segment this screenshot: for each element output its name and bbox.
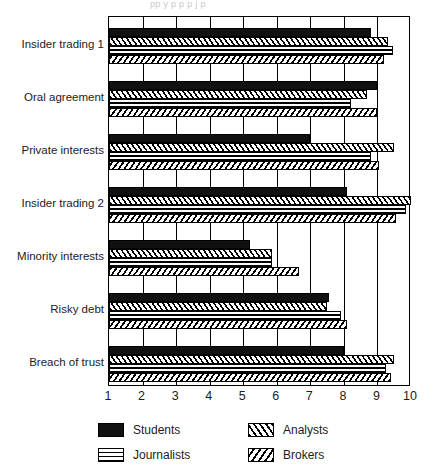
y-axis-label-oral-agreement: Oral agreement	[0, 91, 104, 103]
legend-item-journalists: Journalists	[98, 445, 190, 464]
y-axis-label-risky-debt: Risky debt	[0, 303, 104, 315]
bar-journalists-insider-trading-1	[109, 46, 393, 55]
bar-brokers-private-interests	[109, 161, 379, 170]
bar-analysts-risky-debt	[109, 302, 327, 311]
bar-journalists-private-interests	[109, 152, 371, 161]
y-axis-label-private-interests: Private interests	[0, 144, 104, 156]
bar-group	[109, 281, 409, 334]
legend-swatch-brokers-icon	[248, 448, 274, 462]
bar-analysts-oral-agreement	[109, 90, 367, 99]
x-tick-label-4: 4	[196, 389, 222, 403]
legend-item-brokers: Brokers	[248, 445, 324, 464]
x-tick-label-5: 5	[229, 389, 255, 403]
bar-analysts-insider-trading-2	[109, 196, 411, 205]
cut-off-title-sliver: pp y p p p j p	[150, 0, 439, 9]
bar-students-insider-trading-2	[109, 187, 347, 196]
legend-item-students: Students	[98, 420, 180, 439]
bar-group	[109, 228, 409, 281]
bar-journalists-risky-debt	[109, 311, 341, 320]
legend-label-students: Students	[133, 423, 180, 437]
bar-students-oral-agreement	[109, 81, 377, 90]
bar-chart-figure: pp y p p p j p Insider trading 1Oral agr…	[0, 0, 439, 473]
x-tick-label-8: 8	[330, 389, 356, 403]
legend-swatch-journalists-icon	[98, 448, 124, 462]
bar-journalists-breach-of-trust	[109, 364, 386, 373]
chart-legend: StudentsAnalystsJournalistsBrokers	[98, 420, 378, 468]
bar-students-breach-of-trust	[109, 346, 344, 355]
x-tick-label-6: 6	[263, 389, 289, 403]
bar-journalists-minority-interests	[109, 258, 272, 267]
legend-swatch-students-icon	[98, 423, 124, 437]
legend-swatch-analysts-icon	[248, 423, 274, 437]
bar-students-minority-interests	[109, 240, 250, 249]
plot-inner	[109, 17, 409, 385]
y-axis-label-breach-of-trust: Breach of trust	[0, 356, 104, 368]
x-tick-label-1: 1	[95, 389, 121, 403]
y-axis-label-minority-interests: Minority interests	[0, 250, 104, 262]
bar-students-private-interests	[109, 134, 310, 143]
bar-brokers-insider-trading-1	[109, 55, 384, 64]
bar-brokers-insider-trading-2	[109, 214, 396, 223]
bar-group	[109, 70, 409, 123]
x-tick-label-7: 7	[296, 389, 322, 403]
bar-analysts-insider-trading-1	[109, 37, 388, 46]
x-tick-label-9: 9	[363, 389, 389, 403]
bar-students-insider-trading-1	[109, 28, 371, 37]
plot-area	[108, 16, 410, 386]
bar-analysts-private-interests	[109, 143, 394, 152]
bar-brokers-oral-agreement	[109, 108, 377, 117]
bar-group	[109, 176, 409, 229]
bar-journalists-insider-trading-2	[109, 205, 406, 214]
bar-group	[109, 123, 409, 176]
x-tick-label-3: 3	[162, 389, 188, 403]
legend-label-analysts: Analysts	[283, 423, 328, 437]
y-axis-label-insider-trading-1: Insider trading 1	[0, 38, 104, 50]
y-axis-label-insider-trading-2: Insider trading 2	[0, 197, 104, 209]
bar-group	[109, 17, 409, 70]
bar-analysts-minority-interests	[109, 249, 272, 258]
bar-students-risky-debt	[109, 293, 329, 302]
bar-brokers-minority-interests	[109, 267, 299, 276]
legend-item-analysts: Analysts	[248, 420, 328, 439]
x-tick-label-2: 2	[129, 389, 155, 403]
x-axis-tick-labels: 12345678910	[108, 389, 410, 407]
y-axis-category-labels: Insider trading 1Oral agreementPrivate i…	[0, 16, 104, 386]
bar-analysts-breach-of-trust	[109, 355, 394, 364]
x-tick-label-10: 10	[397, 389, 423, 403]
legend-label-journalists: Journalists	[133, 448, 190, 462]
bar-brokers-breach-of-trust	[109, 373, 391, 382]
bar-group	[109, 334, 409, 387]
bar-brokers-risky-debt	[109, 320, 347, 329]
legend-label-brokers: Brokers	[283, 448, 324, 462]
bar-journalists-oral-agreement	[109, 99, 351, 108]
